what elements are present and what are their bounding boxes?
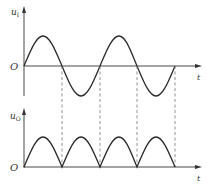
top-y-label: uI	[11, 7, 20, 18]
bottom-y-label: uO	[10, 111, 21, 122]
input-waveform-plot: uI O t	[10, 6, 202, 96]
top-y-axis-arrow-icon	[22, 6, 26, 13]
dashed-guides	[62, 66, 175, 167]
bottom-x-axis-arrow-icon	[195, 165, 202, 169]
output-waveform-plot: uO O t	[10, 108, 202, 183]
bottom-x-label: t	[197, 174, 201, 183]
rectifier-waveform-diagram: uI O t uO O t	[0, 0, 207, 185]
output-rectified-curve	[24, 137, 175, 167]
bottom-origin-label: O	[10, 162, 18, 173]
top-origin-label: O	[10, 61, 18, 72]
top-x-label: t	[197, 73, 201, 82]
bottom-y-axis-arrow-icon	[22, 108, 26, 115]
top-x-axis-arrow-icon	[195, 64, 202, 68]
